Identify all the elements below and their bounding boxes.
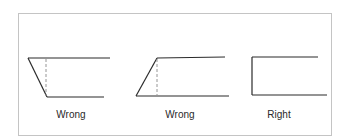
panel-wrong-2: Wrong xyxy=(136,57,229,120)
slanted-side-line xyxy=(136,58,157,96)
panel-wrong-1: Wrong xyxy=(28,58,110,120)
panel-label: Wrong xyxy=(165,109,194,120)
top-edge-line xyxy=(157,57,225,58)
panel-right: Right xyxy=(252,57,327,120)
slanted-side-line xyxy=(28,58,47,97)
diagram-figure: Wrong Wrong Right xyxy=(0,0,347,139)
panel-label: Right xyxy=(267,109,291,120)
panel-label: Wrong xyxy=(56,109,85,120)
